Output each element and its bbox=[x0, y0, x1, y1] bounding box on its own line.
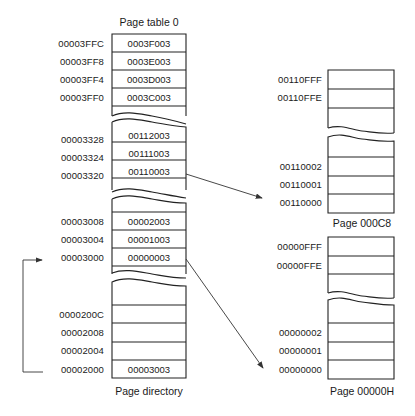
pte-value: 0003D003 bbox=[112, 74, 186, 86]
page-0-title: Page 00000H bbox=[320, 385, 404, 397]
addr-label: 00003004 bbox=[20, 234, 104, 246]
pte-value: 00002003 bbox=[112, 216, 186, 228]
addr-label: 00002004 bbox=[20, 345, 104, 357]
pte-value: 00110003 bbox=[112, 166, 186, 178]
pte-value: 0003C003 bbox=[112, 92, 186, 104]
pte-value: 00112003 bbox=[112, 130, 186, 142]
pte-value: 0003F003 bbox=[112, 38, 186, 50]
pde-value: 00003003 bbox=[112, 364, 186, 376]
addr-label: 00003000 bbox=[20, 252, 104, 264]
addr-label: 00003FF0 bbox=[20, 92, 104, 104]
addr-label: 00110000 bbox=[230, 197, 322, 209]
addr-label: 00003FFC bbox=[20, 38, 104, 50]
addr-label: 00000FFE bbox=[230, 260, 322, 272]
pte-value: 0003E003 bbox=[112, 56, 186, 68]
addr-label: 00003008 bbox=[20, 216, 104, 228]
addr-label: 00000FFF bbox=[230, 241, 322, 253]
addr-label: 0000200C bbox=[20, 309, 104, 321]
addr-label: 00002000 bbox=[20, 364, 104, 376]
page-c8-title: Page 000C8 bbox=[322, 217, 402, 229]
addr-label: 00003328 bbox=[20, 134, 104, 146]
addr-label: 00000001 bbox=[230, 345, 322, 357]
addr-label: 00003324 bbox=[20, 152, 104, 164]
addr-label: 00000000 bbox=[230, 364, 322, 376]
pte-value: 00111003 bbox=[112, 148, 186, 160]
page-table-title: Page table 0 bbox=[112, 16, 186, 28]
page-directory-title: Page directory bbox=[100, 385, 198, 397]
addr-label: 00110002 bbox=[230, 161, 322, 173]
addr-label: 00003320 bbox=[20, 170, 104, 182]
addr-label: 00000002 bbox=[230, 327, 322, 339]
pte-value: 00000003 bbox=[112, 252, 186, 264]
addr-label: 00110FFF bbox=[230, 74, 322, 86]
addr-label: 00002008 bbox=[20, 327, 104, 339]
addr-label: 00003FF4 bbox=[20, 74, 104, 86]
addr-label: 00110001 bbox=[230, 179, 322, 191]
pte-value: 00001003 bbox=[112, 234, 186, 246]
addr-label: 00110FFE bbox=[230, 92, 322, 104]
addr-label: 00003FF8 bbox=[20, 56, 104, 68]
